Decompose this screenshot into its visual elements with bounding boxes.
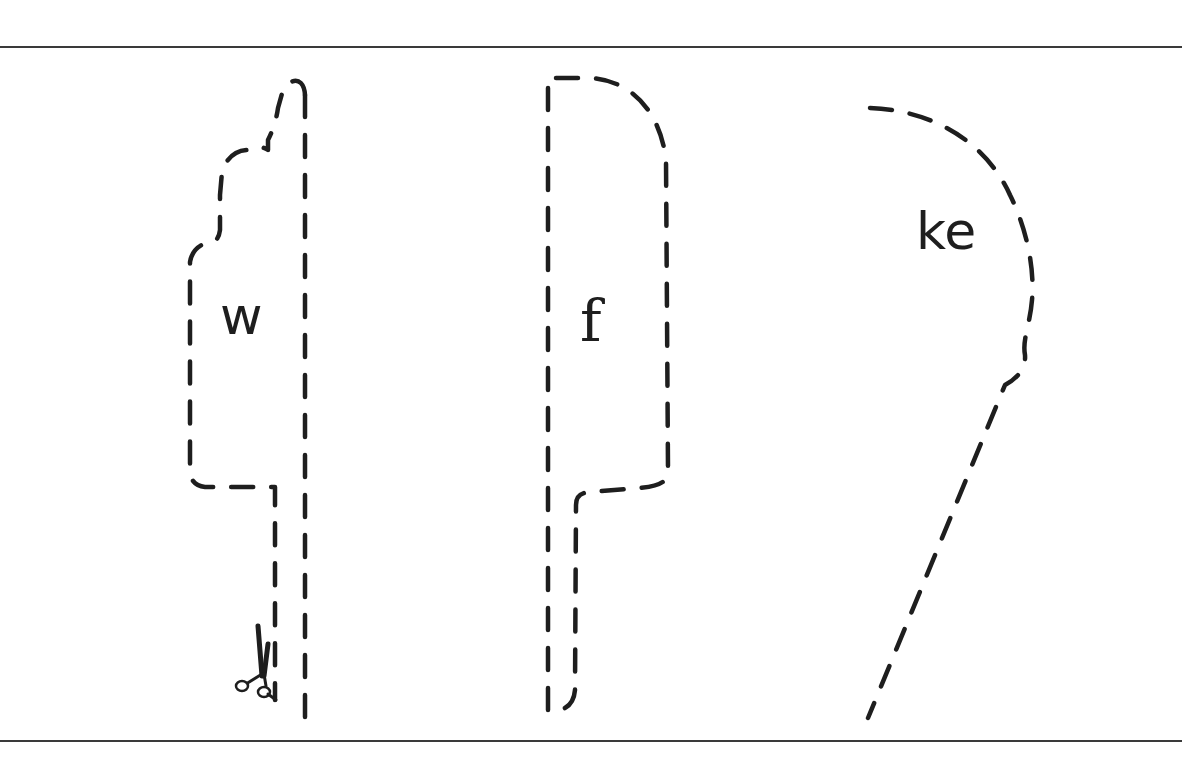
shape-label-f: f bbox=[580, 292, 601, 350]
worksheet-page: w f ke bbox=[0, 0, 1182, 770]
cutout-shape-f bbox=[548, 78, 668, 710]
shape-label-ke: ke bbox=[916, 205, 976, 257]
shape-label-w: w bbox=[220, 290, 263, 342]
cutout-shape-ke bbox=[868, 108, 1033, 718]
cutout-shape-w bbox=[190, 81, 305, 718]
scissors-icon bbox=[236, 626, 276, 700]
cut-out-shapes bbox=[0, 0, 1182, 770]
